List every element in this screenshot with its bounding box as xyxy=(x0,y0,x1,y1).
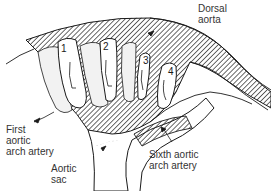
label-sixth-aortic-arch-artery: Sixth aortic arch artery xyxy=(149,149,198,171)
label-line: First xyxy=(6,124,54,135)
arch-number-2: 2 xyxy=(103,41,109,52)
label-line: arch artery xyxy=(149,160,198,171)
label-line: arch artery xyxy=(6,146,54,157)
arch-number-1: 1 xyxy=(61,43,67,54)
label-line: Sixth aortic xyxy=(149,149,198,160)
label-line: Dorsal xyxy=(198,3,227,14)
aortic-arch-diagram: 1 2 3 4 Dorsal aorta First aortic arch a… xyxy=(0,0,271,191)
label-line: aortic xyxy=(6,135,54,146)
label-line: Aortic xyxy=(51,163,77,174)
label-first-aortic-arch-artery: First aortic arch artery xyxy=(6,124,54,157)
arrowhead-icon xyxy=(34,118,40,123)
diagram-drawing: 1 2 3 4 xyxy=(0,0,271,191)
label-aortic-sac: Aortic sac xyxy=(51,163,77,185)
label-line: sac xyxy=(51,174,77,185)
label-dorsal-aorta: Dorsal aorta xyxy=(198,3,227,25)
label-line: aorta xyxy=(198,14,227,25)
arch-number-4: 4 xyxy=(168,66,174,77)
arch-number-3: 3 xyxy=(143,55,149,66)
aortic-sac-arrowhead-icon xyxy=(101,146,106,151)
